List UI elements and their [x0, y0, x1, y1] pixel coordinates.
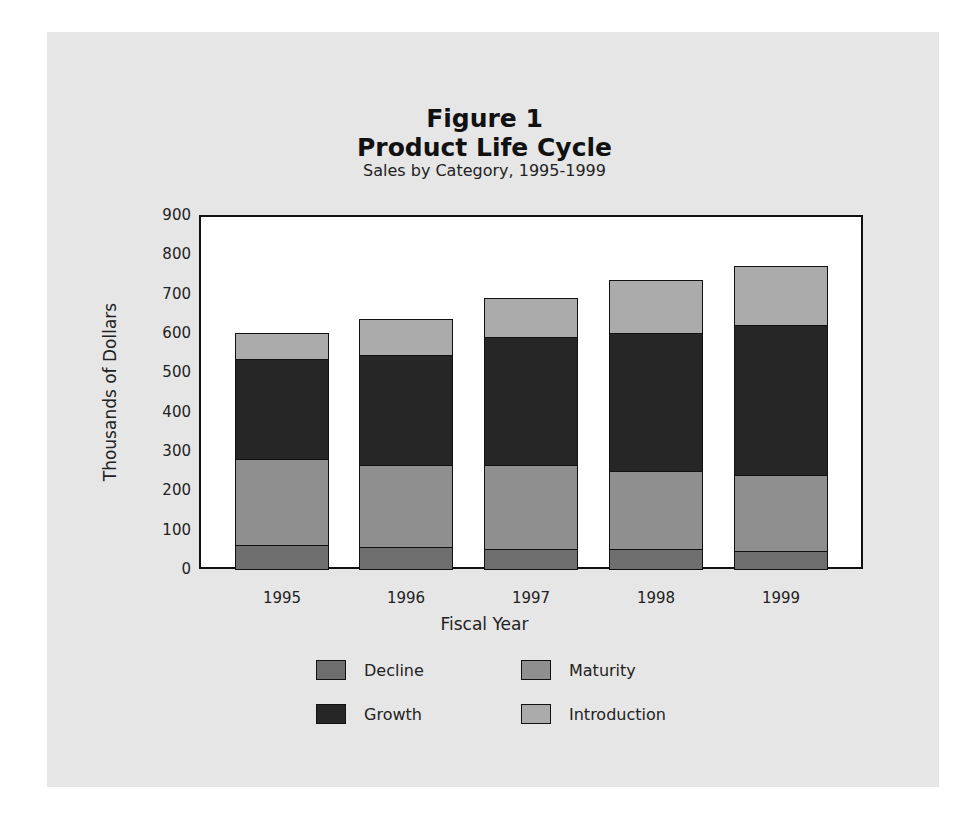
x-tick-label: 1997	[484, 589, 578, 607]
bar-segment-introduction	[359, 319, 453, 355]
chart-title: Product Life Cycle	[0, 133, 969, 162]
legend-label: Introduction	[569, 705, 666, 724]
legend-label: Growth	[364, 705, 422, 724]
bar-segment-growth	[734, 325, 828, 475]
bar-segment-introduction	[734, 266, 828, 326]
x-tick-label: 1998	[609, 589, 703, 607]
figure-label: Figure 1	[0, 104, 969, 133]
bar-segment-maturity	[235, 459, 329, 547]
legend-swatch-growth	[316, 704, 346, 724]
y-tick-label: 900	[151, 206, 191, 224]
legend-swatch-introduction	[521, 704, 551, 724]
y-tick-label: 0	[151, 560, 191, 578]
legend-label: Maturity	[569, 661, 636, 680]
legend-swatch-maturity	[521, 660, 551, 680]
legend-item-decline: Decline	[316, 660, 424, 680]
legend-item-maturity: Maturity	[521, 660, 636, 680]
y-axis-label: Thousands of Dollars	[100, 303, 120, 481]
bar-segment-growth	[359, 355, 453, 466]
legend-item-introduction: Introduction	[521, 704, 666, 724]
bar-segment-growth	[484, 337, 578, 466]
bar-segment-decline	[484, 549, 578, 570]
chart-subtitle: Sales by Category, 1995-1999	[0, 161, 969, 180]
y-tick-label: 600	[151, 324, 191, 342]
bar-segment-decline	[609, 549, 703, 570]
y-tick-label: 300	[151, 442, 191, 460]
bar-segment-maturity	[734, 475, 828, 553]
x-axis-label: Fiscal Year	[0, 614, 969, 634]
bar-segment-decline	[734, 551, 828, 570]
bar-segment-introduction	[235, 333, 329, 360]
bar-segment-introduction	[609, 280, 703, 334]
x-tick-label: 1995	[235, 589, 329, 607]
x-tick-label: 1999	[734, 589, 828, 607]
bar-segment-maturity	[359, 465, 453, 549]
y-tick-label: 700	[151, 285, 191, 303]
legend-swatch-decline	[316, 660, 346, 680]
bar-segment-maturity	[484, 465, 578, 551]
legend-item-growth: Growth	[316, 704, 422, 724]
y-tick-label: 200	[151, 481, 191, 499]
y-tick-label: 400	[151, 403, 191, 421]
y-tick-label: 500	[151, 363, 191, 381]
bar-segment-growth	[235, 359, 329, 460]
y-tick-label: 800	[151, 245, 191, 263]
bar-segment-introduction	[484, 298, 578, 338]
bar-segment-maturity	[609, 471, 703, 551]
legend-label: Decline	[364, 661, 424, 680]
x-tick-label: 1996	[359, 589, 453, 607]
bar-segment-decline	[235, 545, 329, 570]
y-tick-label: 100	[151, 521, 191, 539]
bar-segment-growth	[609, 333, 703, 472]
bar-segment-decline	[359, 547, 453, 570]
